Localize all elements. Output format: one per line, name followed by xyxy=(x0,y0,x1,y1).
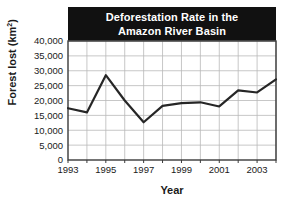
y-axis-tick-labels: 05,00010,00015,00020,00025,00030,00035,0… xyxy=(34,35,63,165)
x-axis-tick-label: 1995 xyxy=(95,164,116,175)
x-axis-tick-label: 1997 xyxy=(133,164,154,175)
chart-figure: Deforestation Rate in the Amazon River B… xyxy=(0,0,286,208)
y-axis-tick-label: 40,000 xyxy=(34,35,63,46)
x-axis-tick-label: 1999 xyxy=(171,164,192,175)
x-axis-tick-labels: 199319951997199920012003 xyxy=(57,164,267,175)
y-axis-tick-label: 5,000 xyxy=(39,140,63,151)
y-axis-tick-label: 30,000 xyxy=(34,65,63,76)
y-axis-tick-label: 10,000 xyxy=(34,125,63,136)
x-axis-tick-label: 2003 xyxy=(247,164,268,175)
x-axis-tick-label: 1993 xyxy=(57,164,78,175)
line-chart-plot: 05,00010,00015,00020,00025,00030,00035,0… xyxy=(0,0,286,208)
x-axis-tick-label: 2001 xyxy=(209,164,230,175)
y-axis-tick-label: 20,000 xyxy=(34,95,63,106)
y-axis-tick-label: 25,000 xyxy=(34,80,63,91)
y-axis-tick-label: 15,000 xyxy=(34,110,63,121)
y-axis-tick-label: 35,000 xyxy=(34,50,63,61)
